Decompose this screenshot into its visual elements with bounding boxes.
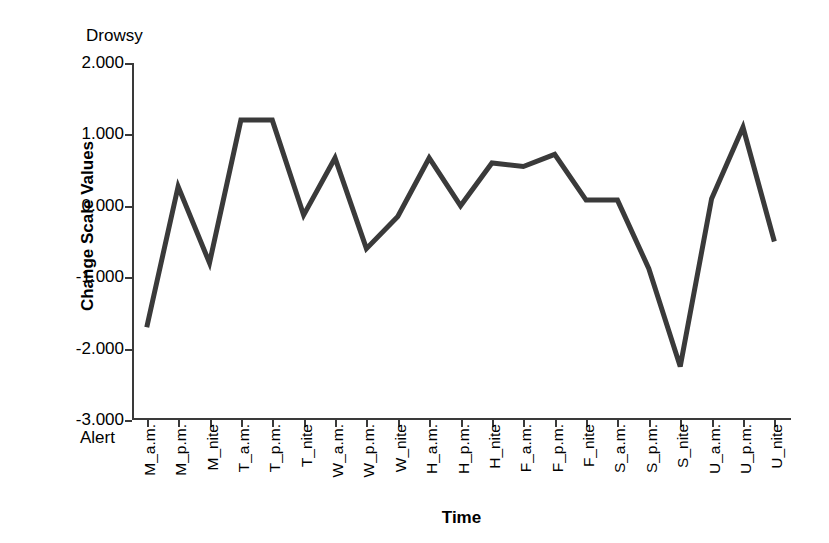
x-tick-label: U_a.m. [706,424,724,474]
y-tick-label-group: 2.0001.0000.000-1.000-2.000-3.000 [34,0,124,543]
x-tick-label: U_nite [768,424,786,469]
x-tick-label: S_p.m. [643,424,661,473]
x-axis-title: Time [132,508,791,528]
x-tick-label-text: H_a.m. [423,424,441,474]
x-tick-label: T_a.m. [235,424,253,472]
y-tick-mark [125,277,132,279]
x-tick-label-text: F_a.m. [517,424,535,472]
x-tick-label: H_nite [486,424,504,469]
x-tick-label-text: H_p.m. [455,424,473,474]
plot-area [132,63,791,420]
x-tick-label: T_p.m. [266,424,284,472]
x-tick-label: M_p.m. [172,424,190,476]
y-tick-label: -2.000 [34,339,124,359]
x-tick-label-text: S_a.m. [611,424,629,473]
y-tick-mark [125,206,132,208]
x-tick-label: W_a.m. [329,424,347,477]
y-tick-label: 0.000 [34,196,124,216]
x-tick-label: S_a.m. [611,424,629,473]
y-tick-label: -3.000 [34,410,124,430]
x-tick-label-text: U_p.m. [737,424,755,474]
y-tick-mark [125,134,132,136]
x-tick-label: W_p.m. [360,424,378,477]
x-tick-label-text: T_a.m. [235,424,253,472]
y-tick-mark [125,63,132,65]
x-tick-label-text: F_nite [580,424,598,467]
x-tick-label-text: W_p.m. [360,424,378,477]
y-tick-label: 1.000 [34,124,124,144]
x-tick-label: S_nite [674,424,692,468]
data-series-line [132,63,791,420]
x-tick-label-text: F_p.m. [549,424,567,472]
x-tick-label-text: M_a.m. [141,424,159,476]
chart-root: Change Scale Values Drowsy Alert 2.0001.… [0,0,829,543]
x-tick-label-text: M_nite [204,424,222,471]
x-tick-label-text: M_p.m. [172,424,190,476]
y-tick-label: 2.000 [34,53,124,73]
x-tick-label: M_nite [204,424,222,471]
x-tick-label-text: U_nite [768,424,786,469]
x-tick-label: W_nite [392,424,410,472]
x-tick-label-text: T_nite [298,424,316,467]
x-tick-label: U_p.m. [737,424,755,474]
x-tick-label-text: S_nite [674,424,692,468]
x-tick-label-text: S_p.m. [643,424,661,473]
x-tick-label: M_a.m. [141,424,159,476]
x-tick-label-text: H_nite [486,424,504,469]
x-tick-label-text: W_a.m. [329,424,347,477]
x-tick-label: H_p.m. [455,424,473,474]
y-tick-mark [125,420,132,422]
x-tick-label-text: U_a.m. [706,424,724,474]
x-tick-label: F_nite [580,424,598,467]
x-tick-label: T_nite [298,424,316,467]
x-tick-label: F_p.m. [549,424,567,472]
x-tick-label: H_a.m. [423,424,441,474]
x-tick-label: F_a.m. [517,424,535,472]
x-tick-label-text: W_nite [392,424,410,472]
y-tick-mark [125,349,132,351]
series-polyline [147,120,775,366]
y-tick-label: -1.000 [34,267,124,287]
x-tick-label-text: T_p.m. [266,424,284,472]
